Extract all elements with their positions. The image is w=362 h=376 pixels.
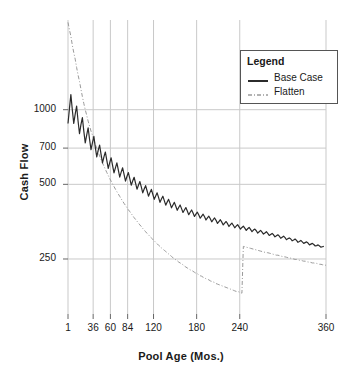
legend-swatch-dash-dot <box>247 86 269 96</box>
x-tick-marks <box>68 314 326 319</box>
x-tick-label: 180 <box>177 322 217 333</box>
cash-flow-chart: Cash Flow Pool Age (Mos.) 1000700500250 … <box>0 0 362 376</box>
y-tick-label: 500 <box>12 177 56 188</box>
legend-label-base-case: Base Case <box>274 72 323 83</box>
legend-item-base-case: Base Case <box>247 70 331 84</box>
legend-label-flatten: Flatten <box>274 86 305 97</box>
legend-title: Legend <box>247 55 331 67</box>
y-tick-label: 700 <box>12 141 56 152</box>
x-axis-title: Pool Age (Mos.) <box>0 350 362 362</box>
x-tick-label: 360 <box>306 322 346 333</box>
y-tick-label: 1000 <box>12 103 56 114</box>
x-tick-label: 120 <box>134 322 174 333</box>
y-tick-label: 250 <box>12 252 56 263</box>
legend: Legend Base Case Flatten <box>240 50 338 104</box>
x-tick-label: 240 <box>220 322 260 333</box>
legend-swatch-solid <box>247 72 269 82</box>
legend-item-flatten: Flatten <box>247 84 331 98</box>
y-tick-marks <box>63 110 68 259</box>
